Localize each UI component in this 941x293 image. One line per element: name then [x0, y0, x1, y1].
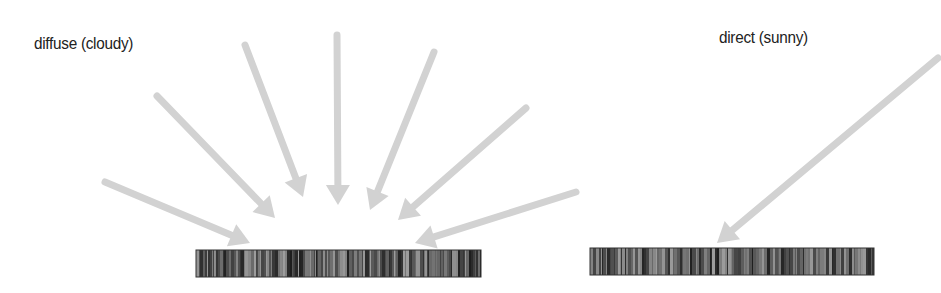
- arrow-shaft: [337, 35, 338, 185]
- arrow-shaft: [245, 45, 296, 178]
- arrow-shaft: [378, 52, 434, 191]
- arrow-head-icon: [326, 185, 350, 205]
- arrow-shaft: [434, 192, 576, 237]
- arrow-shaft: [157, 96, 261, 204]
- arrow-shaft: [732, 58, 938, 230]
- direct-surface-bar: [590, 248, 874, 275]
- arrow-shaft: [413, 108, 526, 207]
- light-diagram: [0, 0, 941, 293]
- diffuse-surface-bar: [196, 250, 481, 277]
- direct-light-ray: [717, 58, 938, 243]
- arrow-shaft: [105, 182, 232, 235]
- diffuse-light-rays: [105, 35, 576, 248]
